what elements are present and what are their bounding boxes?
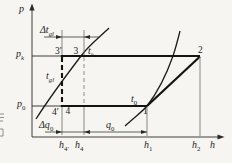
point-4-label: 4 — [66, 106, 71, 116]
ph-diagram-svg: p h pk p0 3′ 3 2 4′ 4 1 tk t0 tgl Δtgl Δ… — [0, 0, 232, 163]
point-3-label: 3 — [74, 46, 79, 56]
point-1-label: 1 — [143, 106, 148, 116]
p-axis-label: p — [18, 3, 24, 14]
point-3prime-label: 3′ — [55, 46, 62, 56]
point-2-label: 2 — [198, 45, 203, 55]
h-axis-label: h — [210, 139, 215, 150]
ph-diagram-figure: p h pk p0 3′ 3 2 4′ 4 1 tk t0 tgl Δtgl Δ… — [0, 0, 232, 163]
figure-background — [0, 0, 232, 163]
point-4prime-label: 4′ — [52, 107, 59, 117]
